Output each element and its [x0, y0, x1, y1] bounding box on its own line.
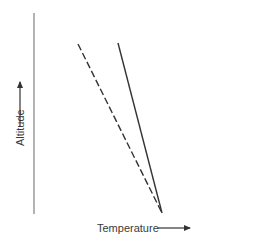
- diagram-canvas: Altitude Temperature: [0, 0, 270, 242]
- solid-line: [118, 43, 162, 213]
- dashed-line: [78, 44, 162, 213]
- x-axis-label: Temperature: [97, 222, 159, 234]
